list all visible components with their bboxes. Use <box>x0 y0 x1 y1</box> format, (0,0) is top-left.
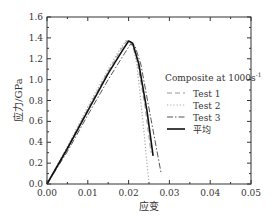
y-tick-labels: 0.00.20.40.60.81.01.21.41.6 <box>29 12 44 189</box>
legend-title: Composite at 1000s-1 <box>165 71 262 83</box>
y-tick-label: 0.6 <box>29 116 44 126</box>
legend-label: Test 3 <box>193 113 221 123</box>
x-tick-label: 0.00 <box>37 188 57 198</box>
y-tick-label: 0.0 <box>29 179 44 189</box>
y-tick-label: 1.6 <box>29 12 44 22</box>
series-dashed-line <box>47 41 151 184</box>
y-tick-label: 0.2 <box>29 158 43 168</box>
stress-strain-chart: 0.000.010.020.030.040.05 0.00.20.40.60.8… <box>0 0 275 220</box>
y-tick-label: 1.4 <box>29 33 44 43</box>
data-series <box>47 40 161 184</box>
y-tick-label: 1.2 <box>29 54 43 64</box>
legend: Composite at 1000s-1 Test 1Test 2Test 3平… <box>165 71 262 135</box>
legend-entries: Test 1Test 2Test 3平均 <box>167 89 221 135</box>
y-tick-label: 0.8 <box>29 96 44 106</box>
x-tick-label: 0.03 <box>159 188 179 198</box>
y-axis-label: 应力/GPa <box>12 78 24 122</box>
x-tick-labels: 0.000.010.020.030.040.05 <box>37 188 261 198</box>
x-tick-label: 0.02 <box>119 188 139 198</box>
x-tick-label: 0.04 <box>200 188 220 198</box>
y-tick-label: 0.4 <box>29 137 44 147</box>
series-solid-line <box>47 41 153 184</box>
x-tick-label: 0.01 <box>78 188 98 198</box>
legend-label: Test 1 <box>193 89 220 99</box>
legend-label: Test 2 <box>193 101 220 111</box>
y-tick-label: 1.0 <box>29 75 44 85</box>
series-dashdot-line <box>47 44 161 184</box>
x-tick-label: 0.05 <box>241 188 261 198</box>
series-dotted-line <box>47 40 149 184</box>
legend-label: 平均 <box>193 124 211 135</box>
x-axis-label: 应变 <box>139 200 159 212</box>
